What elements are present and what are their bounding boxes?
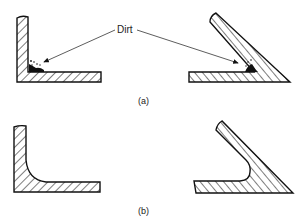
caption-b: (b) xyxy=(138,206,149,216)
dirt-arrow-left xyxy=(44,30,115,62)
panel-a-right-angle-sharp xyxy=(189,13,290,82)
caption-a: (a) xyxy=(138,96,149,106)
panel-b-right-angle-radiused xyxy=(194,121,293,193)
panel-a-left-angle-sharp xyxy=(17,16,101,82)
panel-b-left-angle-radiused xyxy=(14,126,100,192)
dirt-label: Dirt xyxy=(117,24,133,35)
dirt-deposit-left xyxy=(29,60,44,72)
dirt-callout: Dirt xyxy=(44,24,238,63)
dirt-trap-diagram: Dirt (a) (b) xyxy=(0,0,308,220)
